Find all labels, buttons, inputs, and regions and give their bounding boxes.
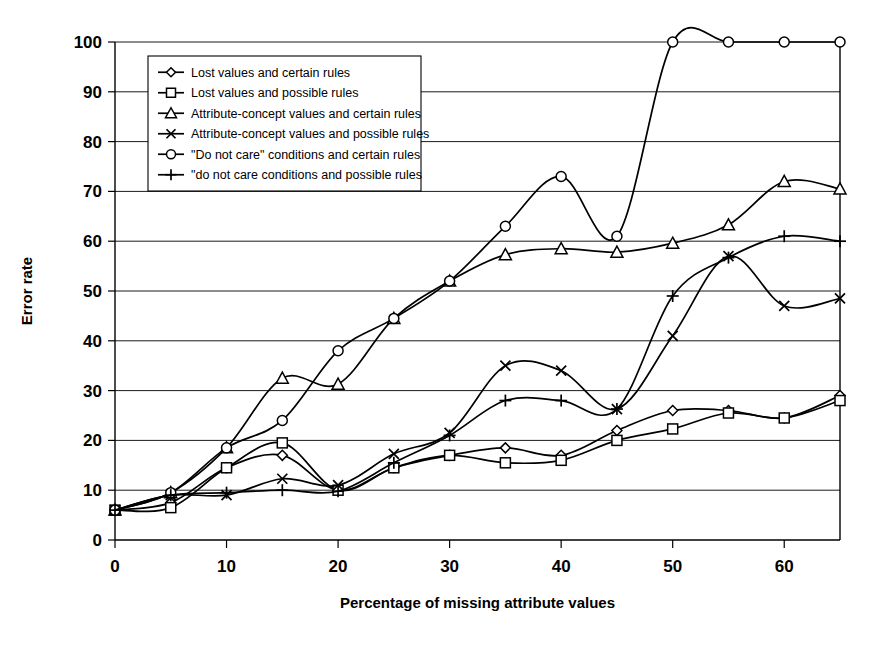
x-tick-label: 20 — [329, 557, 348, 576]
legend: Lost values and certain rulesLost values… — [148, 56, 429, 191]
marker-plus — [499, 395, 511, 407]
marker-cross — [668, 331, 678, 341]
y-tick-label: 60 — [83, 232, 102, 251]
marker-square — [668, 424, 678, 434]
marker-circle — [222, 443, 232, 453]
marker-triangle — [276, 372, 288, 383]
marker-plus — [722, 252, 734, 264]
series-2 — [109, 175, 846, 515]
marker-circle — [500, 221, 510, 231]
x-axis-title: Percentage of missing attribute values — [340, 594, 615, 611]
legend-item-label: Attribute-concept values and certain rul… — [191, 107, 421, 121]
x-tick-label: 40 — [552, 557, 571, 576]
y-axis-tick-labels: 0102030405060708090100 — [74, 33, 115, 550]
marker-diamond — [277, 450, 287, 460]
y-tick-label: 70 — [83, 182, 102, 201]
legend-item-label: "Do not care" conditions and certain rul… — [191, 148, 420, 162]
marker-plus — [778, 230, 790, 242]
marker-diamond — [612, 425, 622, 435]
marker-circle — [612, 231, 622, 241]
marker-square — [166, 503, 176, 513]
marker-square — [222, 463, 232, 473]
marker-circle — [277, 415, 287, 425]
marker-circle — [779, 37, 789, 47]
marker-square — [556, 455, 566, 465]
x-tick-label: 0 — [110, 557, 119, 576]
marker-plus — [276, 484, 288, 496]
marker-cross — [779, 301, 789, 311]
y-tick-label: 20 — [83, 431, 102, 450]
marker-cross — [500, 361, 510, 371]
marker-plus — [221, 487, 233, 499]
marker-diamond — [668, 406, 678, 416]
marker-square — [779, 413, 789, 423]
marker-triangle — [722, 219, 734, 230]
x-tick-label: 50 — [663, 557, 682, 576]
legend-item[interactable]: Attribute-concept values and certain rul… — [158, 107, 421, 121]
marker-circle — [333, 346, 343, 356]
error-rate-line-chart: 01020304050607080901000102030405060Perce… — [0, 0, 883, 646]
y-tick-label: 40 — [83, 332, 102, 351]
marker-cross — [556, 366, 566, 376]
legend-item[interactable]: "Do not care" conditions and certain rul… — [158, 148, 420, 162]
legend-item-label: Attribute-concept values and possible ru… — [191, 127, 429, 141]
y-tick-label: 10 — [83, 481, 102, 500]
x-tick-label: 30 — [440, 557, 459, 576]
legend-item-label: "do not care conditions and possible rul… — [191, 168, 422, 182]
marker-triangle — [332, 378, 344, 389]
marker-square — [500, 458, 510, 468]
marker-square — [835, 396, 845, 406]
marker-circle — [556, 171, 566, 181]
y-tick-label: 100 — [74, 33, 102, 52]
marker-plus — [555, 395, 567, 407]
y-axis-title: Error rate — [18, 257, 35, 325]
y-tick-label: 30 — [83, 382, 102, 401]
marker-circle — [668, 37, 678, 47]
marker-circle — [389, 313, 399, 323]
marker-square — [167, 88, 176, 97]
marker-circle — [445, 276, 455, 286]
y-tick-label: 0 — [93, 531, 102, 550]
x-tick-label: 60 — [775, 557, 794, 576]
marker-circle — [167, 150, 176, 159]
y-tick-label: 90 — [83, 83, 102, 102]
marker-square — [723, 408, 733, 418]
marker-plus — [444, 429, 456, 441]
legend-item-label: Lost values and certain rules — [191, 66, 350, 80]
y-tick-label: 50 — [83, 282, 102, 301]
legend-item-label: Lost values and possible rules — [191, 86, 358, 100]
marker-square — [445, 450, 455, 460]
legend-item[interactable]: Attribute-concept values and possible ru… — [158, 127, 429, 141]
marker-square — [277, 438, 287, 448]
marker-circle — [723, 37, 733, 47]
legend-item[interactable]: "do not care conditions and possible rul… — [158, 168, 422, 182]
marker-square — [612, 435, 622, 445]
chart-container: 01020304050607080901000102030405060Perce… — [0, 0, 883, 646]
x-tick-label: 10 — [217, 557, 236, 576]
marker-plus — [834, 235, 846, 247]
y-tick-label: 80 — [83, 133, 102, 152]
marker-diamond — [500, 443, 510, 453]
marker-circle — [835, 37, 845, 47]
x-axis-tick-labels: 0102030405060 — [110, 540, 793, 576]
